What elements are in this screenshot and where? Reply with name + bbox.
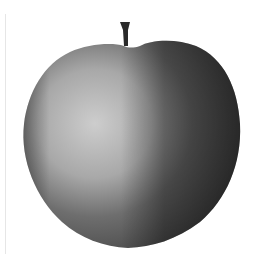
apple-photo (0, 0, 262, 261)
apple-stem (120, 22, 130, 46)
